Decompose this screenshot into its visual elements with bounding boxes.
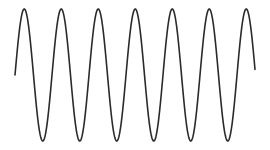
wave-diagram — [0, 0, 270, 150]
background — [0, 0, 270, 150]
